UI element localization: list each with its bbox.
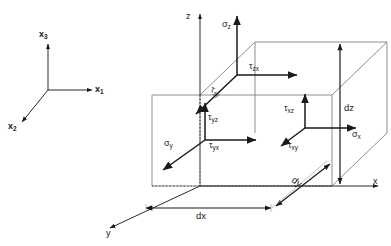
tau-zx-label: τzx	[249, 62, 259, 71]
axis-y-line	[110, 186, 200, 228]
tau-yz-label: τyz	[208, 113, 218, 122]
dimension-dx-label: dx	[196, 211, 206, 221]
axis-y-label: y	[106, 229, 111, 238]
cube-edges-group	[152, 42, 387, 186]
tau-xy-label: τxy	[288, 141, 298, 150]
axis-x2-line	[22, 90, 48, 122]
dimension-dy-line	[276, 164, 330, 206]
cube-top-face	[200, 42, 387, 95]
axis-x1-label: x1	[95, 85, 104, 94]
cube-left-face	[152, 95, 200, 186]
dimension-dz-label: dz	[344, 103, 354, 113]
dimension-lines-group	[146, 44, 340, 208]
sigma-z-label: σz	[222, 20, 231, 29]
tau-xz-label: τxz	[284, 104, 294, 113]
sigma-x-label: σx	[352, 130, 361, 139]
cube-axes-group	[110, 14, 378, 228]
top-face-stress-group	[196, 16, 297, 114]
axis-z-label: z	[186, 12, 191, 21]
reference-axes-group	[22, 44, 92, 122]
sigma-y-label: σy	[164, 139, 173, 148]
axis-x2-label: x2	[8, 122, 17, 131]
axis-x3-label: x3	[39, 30, 48, 39]
tau-yx-label: τyx	[209, 141, 219, 150]
figure-canvas: x1 x2 x3 z x y σz τzx τzy τyz τyx σy τxz…	[0, 0, 391, 246]
axis-x-label: x	[373, 177, 378, 186]
